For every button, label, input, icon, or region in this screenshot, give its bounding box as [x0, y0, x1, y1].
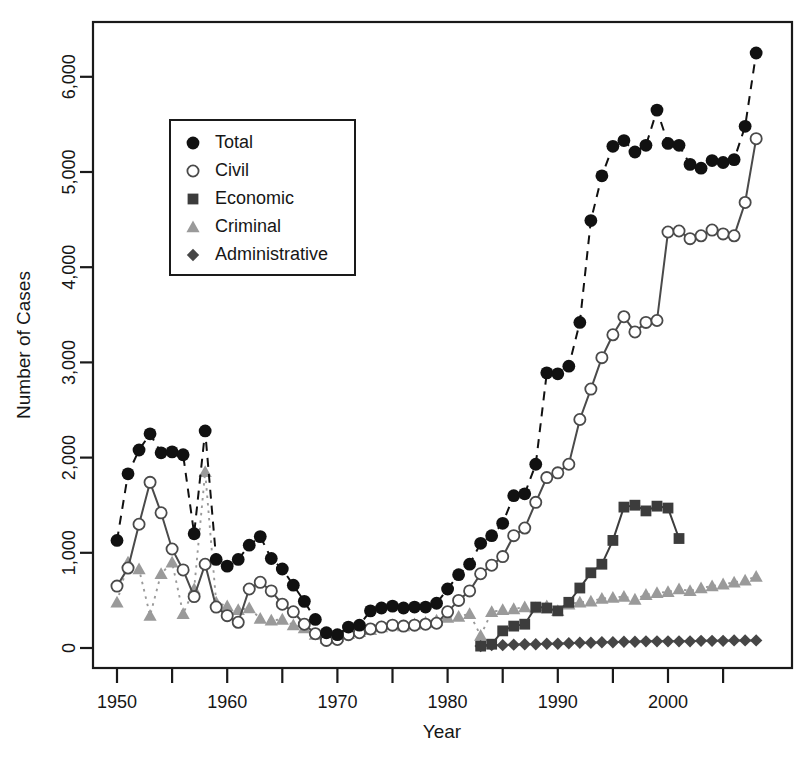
data-point [309, 613, 322, 626]
legend-marker-civil [187, 165, 198, 176]
legend-label-criminal: Criminal [215, 216, 281, 236]
data-point [486, 639, 497, 650]
data-point [420, 619, 431, 630]
data-point [167, 543, 178, 554]
data-point [111, 581, 122, 592]
x-tick-label: 2000 [648, 692, 688, 712]
data-point [662, 226, 673, 237]
data-point [728, 153, 741, 166]
data-point [652, 501, 663, 512]
data-point [464, 585, 475, 596]
y-tick-label: 5,000 [59, 149, 79, 194]
data-point [408, 601, 421, 614]
data-point [144, 477, 155, 488]
data-point [573, 316, 586, 329]
data-point [299, 619, 310, 630]
data-point [541, 472, 552, 483]
number-of-cases-line-chart: 01,0002,0003,0004,0005,0006,000 19501960… [0, 0, 811, 768]
data-point [122, 562, 133, 573]
data-point [641, 506, 652, 517]
data-point [298, 595, 311, 608]
data-point [674, 533, 685, 544]
data-point [618, 311, 629, 322]
data-point [541, 603, 552, 614]
data-point [619, 502, 630, 513]
data-point [475, 568, 486, 579]
data-point [111, 534, 124, 547]
data-point [552, 467, 563, 478]
legend-label-economic: Economic [215, 188, 294, 208]
data-point [232, 553, 245, 566]
data-point [122, 467, 135, 480]
data-point [233, 617, 244, 628]
x-tick-label: 1980 [428, 692, 468, 712]
data-point [221, 560, 234, 573]
data-point [452, 568, 465, 581]
data-point [607, 140, 620, 153]
data-point [706, 154, 719, 167]
data-point [144, 427, 157, 440]
data-point [320, 626, 333, 639]
data-point [574, 583, 585, 594]
data-point [200, 559, 211, 570]
chart-background [0, 0, 811, 768]
data-point [585, 383, 596, 394]
data-point [718, 228, 729, 239]
data-point [277, 599, 288, 610]
data-point [662, 137, 675, 150]
data-point [706, 224, 717, 235]
data-point [629, 146, 642, 159]
data-point [750, 47, 763, 60]
data-point [342, 621, 355, 634]
data-point [651, 104, 664, 117]
data-point [276, 563, 289, 576]
data-point [607, 329, 618, 340]
data-point [409, 620, 420, 631]
data-point [189, 591, 200, 602]
legend-label-total: Total [215, 132, 253, 152]
y-tick-label: 6,000 [59, 54, 79, 99]
data-point [475, 641, 486, 652]
data-point [453, 595, 464, 606]
data-point [497, 625, 508, 636]
data-point [651, 315, 662, 326]
data-point [640, 139, 653, 152]
x-axis-title: Year [423, 721, 462, 742]
data-point [243, 539, 256, 552]
data-point [486, 560, 497, 571]
data-point [584, 214, 597, 227]
chart-container: 01,0002,0003,0004,0005,0006,000 19501960… [0, 0, 811, 768]
data-point [386, 600, 399, 613]
data-point [178, 564, 189, 575]
data-point [496, 517, 509, 530]
data-point [375, 602, 388, 615]
data-point [222, 610, 233, 621]
data-point [244, 583, 255, 594]
data-point [673, 139, 686, 152]
data-point [133, 444, 146, 457]
data-point [508, 621, 519, 632]
data-point [673, 225, 684, 236]
y-tick-label: 2,000 [59, 435, 79, 480]
legend-label-administrative: Administrative [215, 244, 328, 264]
data-point [595, 169, 608, 182]
data-point [441, 583, 454, 596]
data-point [640, 317, 651, 328]
data-point [608, 535, 619, 546]
data-point [442, 606, 453, 617]
x-tick-label: 1960 [207, 692, 247, 712]
data-point [508, 530, 519, 541]
data-point [551, 367, 564, 380]
data-point [519, 522, 530, 533]
data-point [739, 120, 752, 133]
data-point [155, 446, 168, 459]
y-tick-label: 4,000 [59, 245, 79, 290]
data-point [211, 601, 222, 612]
y-tick-label: 1,000 [59, 530, 79, 575]
x-tick-label: 1950 [97, 692, 137, 712]
data-point [585, 567, 596, 578]
data-point [574, 414, 585, 425]
legend-label-civil: Civil [215, 160, 249, 180]
x-tick-label: 1990 [538, 692, 578, 712]
data-point [474, 537, 487, 550]
